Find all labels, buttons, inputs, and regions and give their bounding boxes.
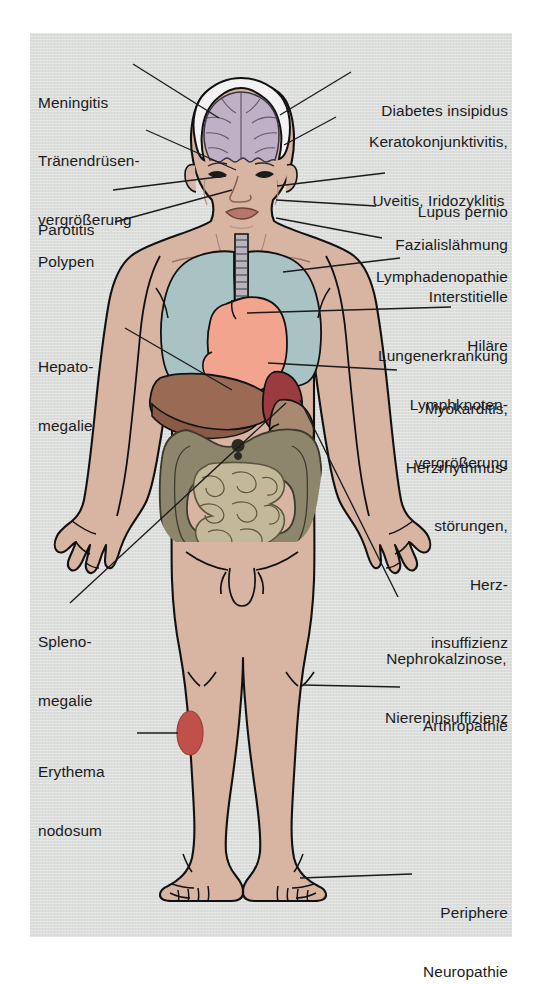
leader-meningitis: [133, 64, 219, 118]
leader-traenendruese: [146, 130, 236, 170]
leader-diabetes-insipidus: [280, 72, 351, 115]
leader-periphere-neuropathie: [300, 874, 412, 878]
leader-splenomegalie: [70, 403, 286, 603]
label-nephro-line-1: Nephrokalzinose,: [385, 649, 508, 669]
label-myokarditis-line-2: Herzrhythmus-: [406, 458, 508, 478]
label-arthropathie[interactable]: Arthropathie: [423, 677, 508, 775]
label-myokarditis-line-3: störungen,: [406, 516, 508, 536]
label-periphere-line-1: Periphere: [423, 903, 508, 923]
label-meningitis-line-1: Meningitis: [38, 93, 108, 113]
label-hepatomegalie[interactable]: Hepato- megalie: [38, 318, 93, 474]
label-kerato-line-1: Keratokonjunktivitis,: [369, 132, 508, 152]
label-erythema-nodosum[interactable]: Erythema nodosum: [38, 723, 105, 879]
leader-keratokonjunktivitis: [284, 117, 336, 145]
label-hepatomegalie-line-2: megalie: [38, 416, 93, 436]
label-polypen[interactable]: Polypen: [38, 213, 94, 311]
leader-nephrokalzinose: [300, 400, 398, 597]
label-hepatomegalie-line-1: Hepato-: [38, 357, 93, 377]
label-periphere-neuropathie[interactable]: Periphere Neuropathie: [423, 864, 508, 984]
label-traenendruese-line-1: Tränendrüsen-: [38, 151, 140, 171]
leader-hepatomegalie: [125, 328, 232, 390]
leader-fazialislaehmung: [276, 200, 376, 206]
label-erythema-line-2: nodosum: [38, 821, 105, 841]
label-polypen-line-1: Polypen: [38, 252, 94, 272]
label-myokarditis-line-4: Herz-: [406, 575, 508, 595]
leader-lymphadenopathie: [276, 218, 382, 238]
label-splenomegalie-line-1: Spleno-: [38, 632, 93, 652]
label-myokarditis-line-1: Myokarditis,: [406, 399, 508, 419]
label-splenomegalie-line-2: megalie: [38, 691, 93, 711]
label-hilaere-line-1: Hiläre: [410, 336, 508, 356]
label-arthropathie-line-1: Arthropathie: [423, 716, 508, 736]
label-erythema-line-1: Erythema: [38, 762, 105, 782]
label-periphere-line-2: Neuropathie: [423, 962, 508, 982]
